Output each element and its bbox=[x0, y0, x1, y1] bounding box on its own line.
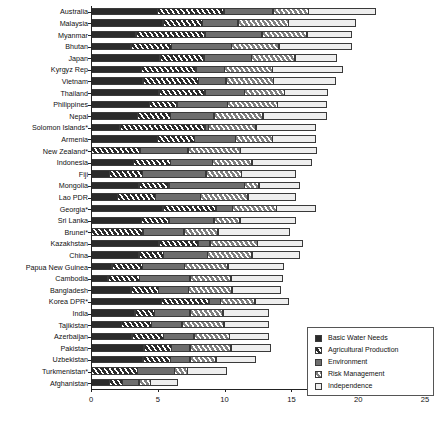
bar-segment-indep bbox=[240, 217, 296, 224]
bar-segment-env bbox=[170, 159, 213, 166]
bar-segment-risk bbox=[206, 170, 242, 177]
legend-item-risk: Risk Management bbox=[315, 368, 433, 380]
bar-segment-risk bbox=[226, 77, 274, 84]
x-axis-tick-label: 10 bbox=[220, 395, 228, 404]
x-axis-tick-label: 20 bbox=[354, 395, 362, 404]
bar-segment-indep bbox=[231, 275, 283, 282]
bar-segment-indep bbox=[295, 54, 338, 61]
bar-segment-agri bbox=[132, 333, 164, 340]
bar-segment-risk bbox=[190, 356, 217, 363]
bar-row bbox=[91, 182, 300, 189]
bar-segment-env bbox=[204, 54, 252, 61]
bar-segment-risk bbox=[188, 147, 241, 154]
bar-row bbox=[91, 54, 337, 61]
bar-segment-indep bbox=[241, 170, 296, 177]
bar-segment-risk bbox=[251, 54, 295, 61]
bar-segment-risk bbox=[200, 193, 248, 200]
x-axis-tick bbox=[225, 389, 226, 392]
bar-row bbox=[91, 321, 269, 328]
bar-segment-indep bbox=[273, 77, 336, 84]
bar-segment-agri bbox=[133, 159, 170, 166]
category-label: Philippines bbox=[53, 99, 88, 110]
bar-row bbox=[91, 356, 256, 363]
bar-segment-risk bbox=[231, 43, 279, 50]
bar-segment-basic bbox=[91, 89, 159, 96]
bar-segment-indep bbox=[248, 193, 296, 200]
bar-segment-env bbox=[140, 147, 188, 154]
bar-segment-agri bbox=[109, 379, 122, 386]
legend-label: Independence bbox=[328, 382, 372, 390]
bar-row bbox=[91, 275, 283, 282]
bar-segment-agri bbox=[149, 101, 177, 108]
bar-segment-indep bbox=[276, 205, 316, 212]
category-label: Pakistan bbox=[60, 343, 88, 354]
bar-segment-env bbox=[143, 228, 184, 235]
bar-segment-indep bbox=[307, 31, 352, 38]
legend-item-basic: Basic Water Needs bbox=[315, 332, 433, 344]
bar-segment-env bbox=[209, 298, 221, 305]
bar-segment-agri bbox=[139, 182, 170, 189]
bar-segment-env bbox=[163, 251, 207, 258]
bar-segment-basic bbox=[91, 135, 158, 142]
bar-segment-agri bbox=[136, 31, 205, 38]
bar-segment-env bbox=[177, 101, 228, 108]
bar-segment-risk bbox=[210, 240, 258, 247]
bar-segment-env bbox=[196, 66, 225, 73]
category-label: Lao PDR bbox=[59, 192, 88, 203]
bar-segment-basic bbox=[91, 263, 112, 270]
legend-item-agri: Agricultural Production bbox=[315, 344, 433, 356]
x-axis-tick bbox=[158, 389, 159, 392]
bar-segment-indep bbox=[240, 147, 316, 154]
x-axis-tick bbox=[91, 389, 92, 392]
bar-segment-indep bbox=[232, 286, 281, 293]
bar-segment-env bbox=[205, 89, 245, 96]
bar-segment-risk bbox=[182, 321, 225, 328]
category-label: Indonesia bbox=[57, 157, 88, 168]
bar-segment-agri bbox=[91, 228, 143, 235]
bar-row bbox=[91, 251, 300, 258]
bar-segment-risk bbox=[184, 228, 219, 235]
x-axis-tick-label: 25 bbox=[421, 395, 429, 404]
bar-segment-basic bbox=[91, 356, 143, 363]
bar-segment-agri bbox=[120, 124, 206, 131]
bar-segment-risk bbox=[244, 89, 284, 96]
bar-segment-env bbox=[171, 344, 190, 351]
bar-segment-basic bbox=[91, 159, 134, 166]
bar-segment-basic bbox=[91, 170, 110, 177]
bar-segment-indep bbox=[256, 124, 316, 131]
bar-row bbox=[91, 263, 284, 270]
bar-segment-agri bbox=[112, 263, 143, 270]
category-label: Armenia bbox=[61, 134, 88, 145]
bar-segment-risk bbox=[224, 66, 272, 73]
category-label: Thailand bbox=[60, 88, 88, 99]
bar-segment-indep bbox=[308, 8, 376, 15]
legend-swatch-icon bbox=[315, 383, 322, 390]
category-label: Myanmar bbox=[58, 30, 88, 41]
bar-segment-env bbox=[171, 43, 231, 50]
bar-segment-basic bbox=[91, 298, 162, 305]
x-axis-tick bbox=[291, 389, 292, 392]
bar-segment-env bbox=[155, 193, 200, 200]
bar-segment-agri bbox=[143, 356, 171, 363]
bar-segment-env bbox=[137, 367, 174, 374]
bar-row bbox=[91, 193, 296, 200]
bar-segment-basic bbox=[91, 286, 131, 293]
category-label: Bhutan bbox=[65, 41, 88, 52]
bar-row bbox=[91, 286, 281, 293]
bar-segment-indep bbox=[263, 112, 327, 119]
legend-swatch-icon bbox=[315, 359, 322, 366]
bar-segment-basic bbox=[91, 54, 160, 61]
bar-segment-agri bbox=[144, 344, 172, 351]
bar-row bbox=[91, 379, 178, 386]
bar-segment-basic bbox=[91, 66, 142, 73]
bar-segment-indep bbox=[252, 159, 312, 166]
bar-segment-basic bbox=[91, 321, 122, 328]
category-label: Georgia* bbox=[60, 204, 88, 215]
bar-segment-risk bbox=[227, 101, 278, 108]
bar-segment-indep bbox=[231, 344, 271, 351]
x-axis-tick-label: 15 bbox=[287, 395, 295, 404]
bar-segment-env bbox=[205, 31, 262, 38]
bar-segment-indep bbox=[229, 333, 269, 340]
category-axis-labels: AustraliaMalaysiaMyanmarBhutanJapanKyrgy… bbox=[0, 6, 88, 389]
bar-segment-indep bbox=[216, 356, 256, 363]
